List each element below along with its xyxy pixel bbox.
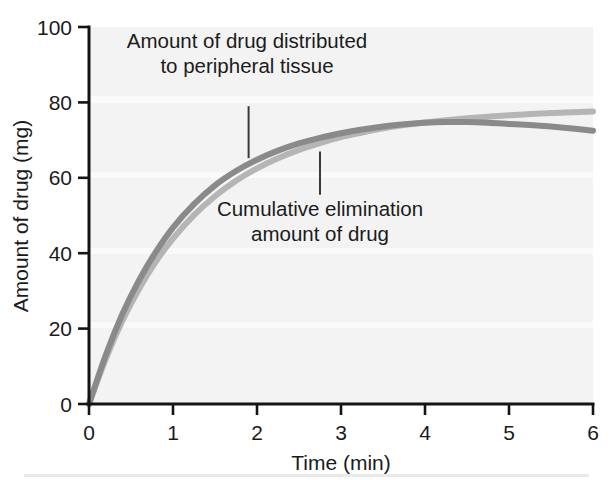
- y-axis-ticks: [78, 27, 89, 404]
- x-tick-label: 1: [167, 421, 179, 444]
- y-tick-label: 80: [49, 91, 72, 114]
- y-axis-tick-labels: 020406080100: [37, 16, 72, 416]
- x-tick-label: 2: [251, 421, 263, 444]
- x-tick-label: 0: [83, 421, 95, 444]
- texture-band: [89, 96, 593, 103]
- annotation-peripheral-line-2: to peripheral tissue: [160, 54, 333, 77]
- y-axis-title: Amount of drug (mg): [9, 120, 32, 313]
- y-axis: 020406080100: [37, 16, 89, 416]
- x-tick-label: 3: [335, 421, 347, 444]
- y-tick-label: 40: [49, 242, 72, 265]
- y-tick-label: 60: [49, 166, 72, 189]
- x-tick-label: 5: [503, 421, 515, 444]
- texture-band: [89, 172, 593, 178]
- x-axis: 0123456: [83, 404, 599, 444]
- x-axis-title: Time (min): [291, 451, 391, 474]
- x-axis-tick-labels: 0123456: [83, 421, 599, 444]
- x-axis-ticks: [89, 404, 593, 415]
- drug-amount-line-chart: 020406080100 0123456 Time (min) Amount o…: [0, 0, 613, 480]
- texture-band: [89, 322, 593, 328]
- annotation-peripheral-line-1: Amount of drug distributed: [127, 29, 367, 52]
- y-tick-label: 20: [49, 317, 72, 340]
- chart-figure: 020406080100 0123456 Time (min) Amount o…: [0, 0, 613, 480]
- annotation-elimination-line-2: amount of drug: [251, 222, 389, 245]
- x-tick-label: 4: [419, 421, 431, 444]
- y-tick-label: 0: [60, 393, 72, 416]
- annotation-elimination-line-1: Cumulative elimination: [217, 197, 423, 220]
- y-tick-label: 100: [37, 16, 72, 39]
- x-tick-label: 6: [587, 421, 599, 444]
- page-bottom-rule: [24, 474, 589, 477]
